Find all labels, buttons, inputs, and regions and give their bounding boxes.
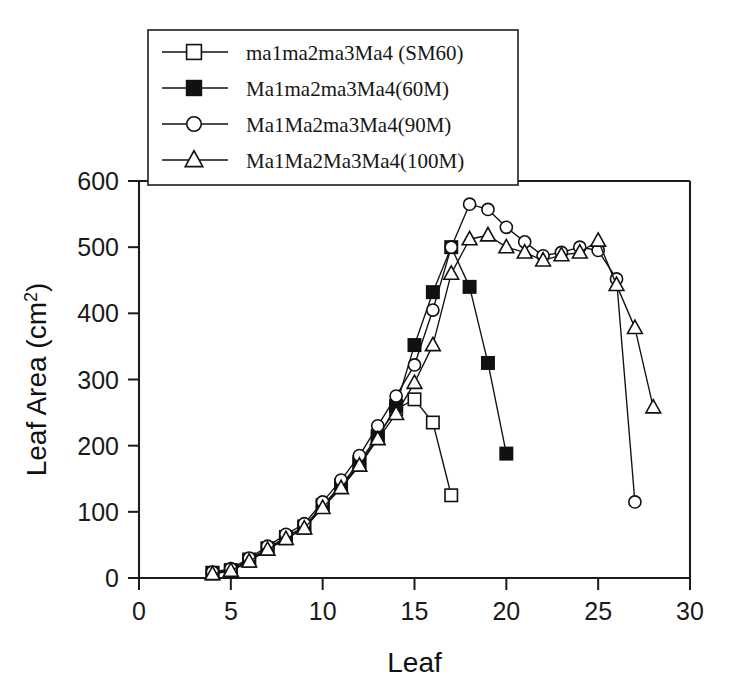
legend-entry-label: ma1ma2ma3Ma4 (SM60)	[246, 41, 464, 65]
series-4	[205, 228, 661, 580]
marker-open-circle	[427, 304, 439, 316]
y-tick-label: 0	[105, 564, 119, 592]
marker-filled-square	[500, 447, 512, 459]
marker-filled-square	[482, 357, 494, 369]
marker-open-triangle	[499, 239, 514, 252]
x-tick-label: 0	[132, 597, 146, 625]
marker-open-circle	[482, 203, 494, 215]
series-1	[206, 393, 457, 579]
marker-open-square	[187, 45, 202, 60]
y-axis-title: Leaf Area (cm2)	[21, 283, 52, 477]
x-tick-label: 10	[309, 597, 337, 625]
marker-open-triangle	[444, 266, 459, 279]
y-tick-label: 600	[77, 167, 119, 195]
series-2	[206, 241, 512, 580]
series-group	[205, 198, 661, 580]
marker-open-square	[445, 489, 457, 501]
marker-filled-square	[187, 81, 202, 96]
marker-open-circle	[445, 241, 457, 253]
y-axis-title-superscript: 2	[21, 292, 41, 302]
marker-open-circle	[187, 117, 202, 132]
marker-filled-square	[408, 339, 420, 351]
chart-canvas: 0100200300400500600051015202530LeafLeaf …	[0, 0, 731, 689]
marker-open-circle	[500, 221, 512, 233]
series-polyline	[212, 247, 506, 573]
y-tick-label: 300	[77, 366, 119, 394]
y-axis-title-close: )	[21, 283, 52, 292]
legend-entry-label: Ma1Ma2Ma3Ma4(100M)	[246, 149, 464, 173]
marker-open-triangle	[646, 400, 661, 413]
marker-open-circle	[390, 390, 402, 402]
legend: ma1ma2ma3Ma4 (SM60)Ma1ma2ma3Ma4(60M)Ma1M…	[148, 30, 518, 185]
legend-entry-label: Ma1Ma2ma3Ma4(90M)	[246, 113, 451, 137]
marker-open-circle	[629, 496, 641, 508]
y-tick-label: 100	[77, 498, 119, 526]
marker-open-square	[408, 393, 420, 405]
chart-figure: 0100200300400500600051015202530LeafLeaf …	[0, 0, 731, 689]
marker-open-triangle	[481, 228, 496, 241]
marker-open-triangle	[628, 320, 643, 333]
series-polyline	[212, 204, 634, 572]
y-axis-title-base: Leaf Area (cm	[21, 302, 52, 476]
y-tick-label: 500	[77, 233, 119, 261]
x-tick-label: 15	[401, 597, 429, 625]
x-tick-label: 20	[492, 597, 520, 625]
marker-filled-square	[463, 281, 475, 293]
x-tick-label: 5	[224, 597, 238, 625]
x-tick-label: 30	[676, 597, 704, 625]
x-tick-label: 25	[584, 597, 612, 625]
y-tick-label: 200	[77, 432, 119, 460]
series-polyline	[212, 399, 451, 572]
x-axis-title: Leaf	[387, 647, 442, 678]
legend-entry-label: Ma1ma2ma3Ma4(60M)	[246, 77, 449, 101]
marker-open-circle	[408, 359, 420, 371]
y-tick-label: 400	[77, 299, 119, 327]
marker-open-triangle	[407, 375, 422, 388]
marker-open-triangle	[591, 233, 606, 246]
marker-open-square	[427, 416, 439, 428]
marker-open-triangle	[426, 337, 441, 350]
marker-open-circle	[464, 198, 476, 210]
